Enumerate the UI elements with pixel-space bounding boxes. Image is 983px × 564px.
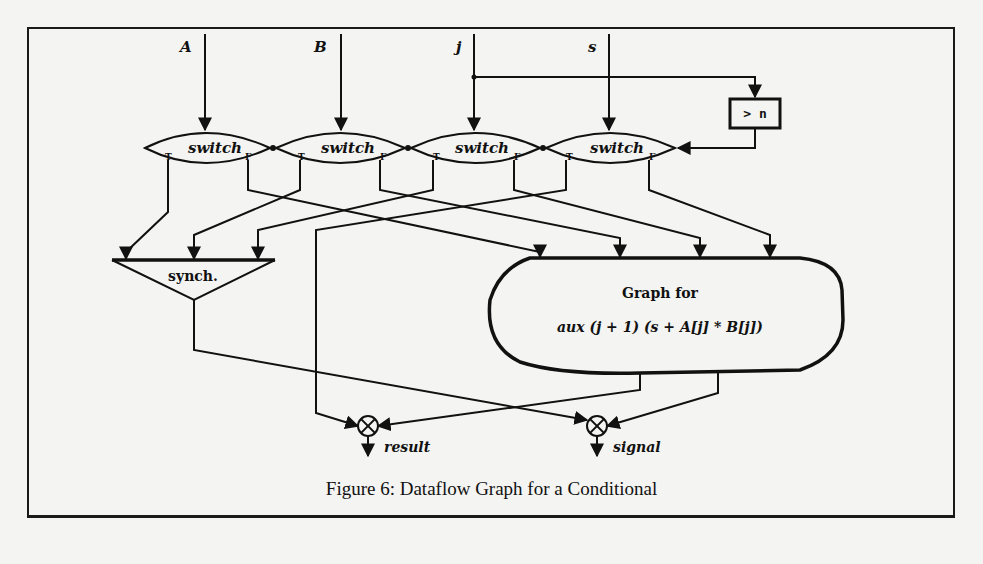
- svg-text:T: T: [433, 152, 440, 162]
- switch-nodes: switch T F switch T F switch T F switch …: [145, 133, 675, 163]
- synch-node: synch.: [112, 260, 587, 420]
- subgraph-expression: aux (j + 1) (s + A[j] * B[j]): [557, 319, 763, 335]
- switch-node-3: switch T F: [411, 133, 540, 163]
- output-label-signal: signal: [613, 439, 661, 455]
- svg-text:F: F: [380, 152, 387, 162]
- comparator-node: > n: [730, 99, 780, 128]
- svg-text:F: F: [514, 152, 521, 162]
- subgraph-node: Graph for aux (j + 1) (s + A[j] * B[j]): [378, 258, 843, 426]
- merge-node-result: result: [358, 416, 431, 456]
- input-label-s: s: [588, 38, 597, 56]
- svg-text:switch: switch: [321, 139, 375, 157]
- svg-text:switch: switch: [188, 139, 242, 157]
- switch-node-1: switch T F: [145, 133, 270, 163]
- input-label-b: B: [313, 38, 327, 56]
- svg-text:F: F: [649, 152, 656, 162]
- svg-text:switch: switch: [590, 139, 644, 157]
- switch-node-2: switch T F: [276, 133, 405, 163]
- input-labels: A B j s: [178, 38, 597, 56]
- svg-text:switch: switch: [455, 139, 509, 157]
- comparator-label: > n: [743, 106, 766, 121]
- input-label-j: j: [453, 38, 462, 56]
- switch-node-4: switch T F: [546, 133, 675, 163]
- synch-label: synch.: [168, 268, 218, 284]
- input-wires: [205, 34, 755, 148]
- input-label-a: A: [178, 38, 192, 56]
- subgraph-title: Graph for: [622, 285, 699, 301]
- svg-text:T: T: [566, 152, 573, 162]
- output-label-result: result: [384, 439, 431, 455]
- figure-caption: Figure 6: Dataflow Graph for a Condition…: [0, 478, 983, 500]
